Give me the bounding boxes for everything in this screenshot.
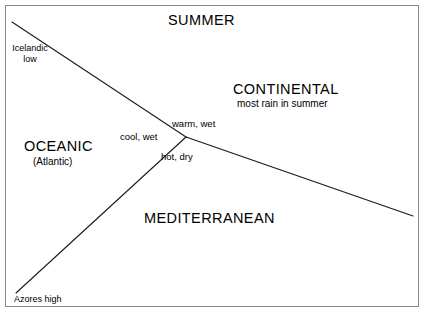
front-label-cool-wet: cool, wet: [120, 132, 158, 142]
region-label-continental: CONTINENTAL: [233, 82, 339, 97]
region-label-oceanic: OCEANIC: [24, 139, 93, 154]
region-label-summer: SUMMER: [168, 13, 235, 28]
region-sublabel-oceanic: (Atlantic): [33, 157, 72, 168]
pressure-label-azores-high: Azores high: [14, 295, 62, 304]
pressure-label-icelandic-low-line2: low: [9, 55, 51, 64]
diagram-page: SUMMER CONTINENTAL most rain in summer O…: [0, 0, 430, 319]
region-sublabel-continental: most rain in summer: [237, 99, 328, 110]
front-label-hot-dry: hot, dry: [161, 152, 193, 162]
front-label-warm-wet: warm, wet: [172, 119, 215, 129]
region-label-mediterranean: MEDITERRANEAN: [144, 211, 275, 226]
front-line-northwest: [12, 22, 186, 137]
front-line-east: [186, 137, 413, 216]
pressure-label-icelandic-low-line1: Icelandic: [9, 44, 51, 53]
